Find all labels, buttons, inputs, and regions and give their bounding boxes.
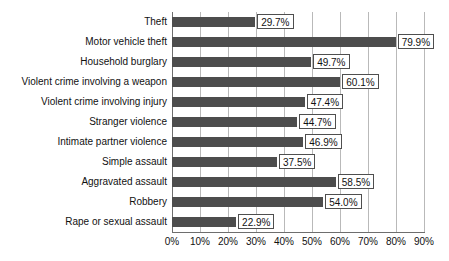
bar <box>172 217 236 227</box>
bar-value-label: 29.7% <box>257 14 293 29</box>
x-axis-line <box>172 232 425 233</box>
x-tick-label: 40% <box>274 236 294 247</box>
bar-value-label: 58.5% <box>338 174 374 189</box>
bar-row: Simple assault37.5% <box>172 152 424 172</box>
bar <box>172 117 297 127</box>
bar-value-label: 37.5% <box>279 154 315 169</box>
bar <box>172 97 305 107</box>
category-label: Violent crime involving injury <box>41 92 167 112</box>
category-label: Motor vehicle theft <box>85 32 167 52</box>
plot-area: Theft29.7%Motor vehicle theft79.9%Househ… <box>172 12 424 232</box>
bar <box>172 77 340 87</box>
bar-row: Stranger violence44.7% <box>172 112 424 132</box>
bar-row: Intimate partner violence46.9% <box>172 132 424 152</box>
bar <box>172 17 255 27</box>
x-tick-label: 30% <box>246 236 266 247</box>
bar-row: Violent crime involving injury47.4% <box>172 92 424 112</box>
bar <box>172 137 303 147</box>
x-tick-label: 60% <box>330 236 350 247</box>
bar-value-label: 60.1% <box>342 74 378 89</box>
x-tick-label: 10% <box>190 236 210 247</box>
bar <box>172 197 323 207</box>
x-tick-label: 0% <box>165 236 179 247</box>
bar <box>172 37 396 47</box>
bar-row: Motor vehicle theft79.9% <box>172 32 424 52</box>
bar <box>172 57 311 67</box>
bar-chart: Theft29.7%Motor vehicle theft79.9%Househ… <box>0 0 449 261</box>
bar-value-label: 22.9% <box>238 214 274 229</box>
category-label: Simple assault <box>102 152 167 172</box>
bar <box>172 177 336 187</box>
category-label: Household burglary <box>80 52 167 72</box>
category-label: Robbery <box>129 192 167 212</box>
category-label: Stranger violence <box>89 112 167 132</box>
x-tick-label: 70% <box>358 236 378 247</box>
bar-value-label: 46.9% <box>305 134 341 149</box>
bar-row: Robbery54.0% <box>172 192 424 212</box>
category-label: Violent crime involving a weapon <box>22 72 167 92</box>
bar-value-label: 47.4% <box>307 94 343 109</box>
x-tick-label: 80% <box>386 236 406 247</box>
bar-value-label: 49.7% <box>313 54 349 69</box>
category-label: Aggravated assault <box>81 172 167 192</box>
category-label: Intimate partner violence <box>57 132 167 152</box>
category-label: Theft <box>144 12 167 32</box>
bar-value-label: 54.0% <box>325 194 361 209</box>
category-label: Rape or sexual assault <box>65 212 167 232</box>
x-tick-label: 90% <box>414 236 434 247</box>
x-tick-label: 20% <box>218 236 238 247</box>
bar <box>172 157 277 167</box>
bar-row: Aggravated assault58.5% <box>172 172 424 192</box>
bar-row: Theft29.7% <box>172 12 424 32</box>
bar-value-label: 79.9% <box>398 34 434 49</box>
bar-row: Violent crime involving a weapon60.1% <box>172 72 424 92</box>
bar-row: Household burglary49.7% <box>172 52 424 72</box>
bar-value-label: 44.7% <box>299 114 335 129</box>
bar-row: Rape or sexual assault22.9% <box>172 212 424 232</box>
x-tick-label: 50% <box>302 236 322 247</box>
